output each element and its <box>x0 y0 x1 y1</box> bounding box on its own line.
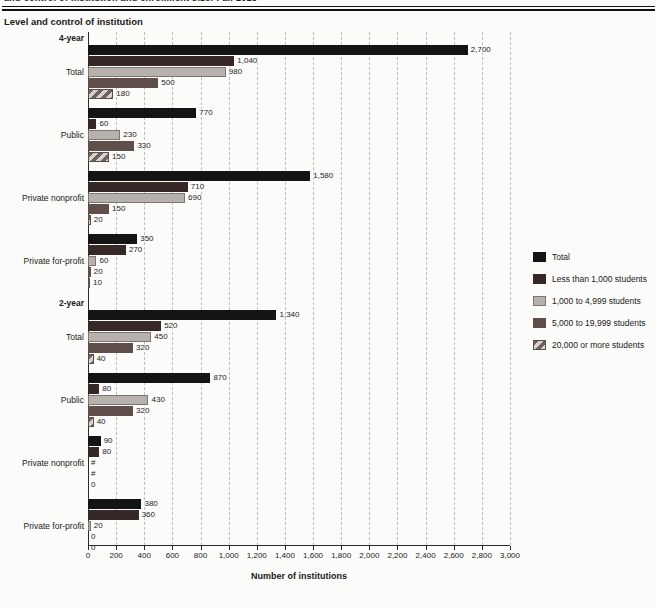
section-label-4-year: 4-year <box>0 32 84 45</box>
bar-value-label: 20 <box>94 215 103 225</box>
bar-value-label: 80 <box>102 384 111 394</box>
bars-stack: 9080##0 <box>88 436 510 490</box>
bar-1,000 to 4,999 students <box>88 256 96 266</box>
x-tick-1200 <box>257 546 258 550</box>
bar-value-label: 180 <box>116 89 129 99</box>
bar-Less than 1,000 students <box>88 321 161 331</box>
group-label: Private nonprofit <box>0 436 88 490</box>
clipped-figure-caption: and control of institution and enrollmen… <box>0 0 657 6</box>
bar-Total <box>88 234 137 244</box>
bar-value-label: 0 <box>91 480 95 490</box>
bar-value-label: 0 <box>91 532 95 542</box>
bar-Less than 1,000 students <box>88 119 96 129</box>
bar-value-label: 40 <box>97 417 106 427</box>
bar-row: 20 <box>88 267 510 277</box>
bar-value-label: # <box>91 458 95 468</box>
legend-swatch-icon <box>533 296 546 306</box>
bar-row: 40 <box>88 417 510 427</box>
bar-row: 320 <box>88 343 510 353</box>
bar-row: 1,580 <box>88 171 510 181</box>
legend-entry-20,000 or more students: 20,000 or more students <box>533 334 647 356</box>
bar-value-label: 320 <box>136 343 149 353</box>
x-axis: 02004006008001,0001,2001,4001,6001,8002,… <box>88 545 510 562</box>
bar-value-label: 40 <box>97 354 106 364</box>
bar-row: # <box>88 469 510 479</box>
bar-row: 1,040 <box>88 56 510 66</box>
x-tick-0 <box>88 546 89 550</box>
legend-label: Less than 1,000 students <box>552 274 647 284</box>
bar-row: 180 <box>88 89 510 99</box>
bar-row: 690 <box>88 193 510 203</box>
bar-5,000 to 19,999 students <box>88 141 134 151</box>
bar-row: 10 <box>88 278 510 288</box>
x-tick-label: 1,600 <box>303 551 323 560</box>
bar-row: 350 <box>88 234 510 244</box>
bar-row: 520 <box>88 321 510 331</box>
bar-Total <box>88 171 310 181</box>
bar-20,000 or more students <box>88 215 91 225</box>
x-tick-label: 1,000 <box>219 551 239 560</box>
legend-swatch-icon <box>533 318 546 328</box>
x-tick-label: 3,000 <box>500 551 520 560</box>
bar-Less than 1,000 students <box>88 510 139 520</box>
legend-swatch-icon <box>533 252 546 262</box>
x-tick-2200 <box>397 546 398 550</box>
x-tick-1400 <box>285 546 286 550</box>
group-4-year-Public: Public77060230330150 <box>0 108 657 162</box>
x-tick-label: 1,200 <box>247 551 267 560</box>
bar-row: 500 <box>88 78 510 88</box>
group-label: Private for-profit <box>0 499 88 553</box>
bar-Less than 1,000 students <box>88 384 99 394</box>
x-tick-800 <box>201 546 202 550</box>
bar-row: 80 <box>88 384 510 394</box>
bar-1,000 to 4,999 students <box>88 193 185 203</box>
bars-stack: 1,34052045032040 <box>88 310 510 364</box>
x-tick-1800 <box>341 546 342 550</box>
legend-label: 5,000 to 19,999 students <box>552 318 646 328</box>
bar-20,000 or more students <box>88 354 94 364</box>
bar-row: 40 <box>88 354 510 364</box>
bar-5,000 to 19,999 students <box>88 343 133 353</box>
bar-20,000 or more students <box>88 417 94 427</box>
x-tick-2400 <box>426 546 427 550</box>
bar-Total <box>88 373 210 383</box>
x-axis-title: Number of institutions <box>88 571 510 581</box>
group-4-year-Private nonprofit: Private nonprofit1,58071069015020 <box>0 171 657 225</box>
x-tick-label: 2,000 <box>359 551 379 560</box>
group-4-year-Total: Total2,7001,040980500180 <box>0 45 657 99</box>
group-label: Private for-profit <box>0 234 88 288</box>
bar-5,000 to 19,999 students <box>88 406 133 416</box>
bar-Total <box>88 108 196 118</box>
bar-row: 870 <box>88 373 510 383</box>
bar-Total <box>88 45 468 55</box>
bar-row: 270 <box>88 245 510 255</box>
bar-value-label: 150 <box>112 204 125 214</box>
bar-20,000 or more students <box>88 278 90 288</box>
group-label: Total <box>0 45 88 99</box>
x-tick-label: 800 <box>194 551 207 560</box>
bar-1,000 to 4,999 students <box>88 395 148 405</box>
bar-row: 20 <box>88 215 510 225</box>
bar-value-label: 1,040 <box>237 56 257 66</box>
bar-value-label: 500 <box>161 78 174 88</box>
group-2-year-Public: Public8708043032040 <box>0 373 657 427</box>
group-label: Total <box>0 310 88 364</box>
x-tick-label: 1,400 <box>275 551 295 560</box>
bar-row: 60 <box>88 256 510 266</box>
legend-entry-5,000 to 19,999 students: 5,000 to 19,999 students <box>533 312 647 334</box>
bar-row: 90 <box>88 436 510 446</box>
bar-row: 80 <box>88 447 510 457</box>
x-tick-200 <box>116 546 117 550</box>
x-tick-label: 400 <box>138 551 151 560</box>
x-tick-3000 <box>510 546 511 550</box>
bar-value-label: 2,700 <box>471 45 491 55</box>
x-tick-400 <box>144 546 145 550</box>
bar-value-label: 330 <box>137 141 150 151</box>
bar-1,000 to 4,999 students <box>88 521 91 531</box>
bar-row: 20 <box>88 521 510 531</box>
bar-Less than 1,000 students <box>88 447 99 457</box>
bar-value-label: 150 <box>112 152 125 162</box>
bar-1,000 to 4,999 students <box>88 130 120 140</box>
bar-value-label: 360 <box>142 510 155 520</box>
bar-value-label: 60 <box>99 256 108 266</box>
